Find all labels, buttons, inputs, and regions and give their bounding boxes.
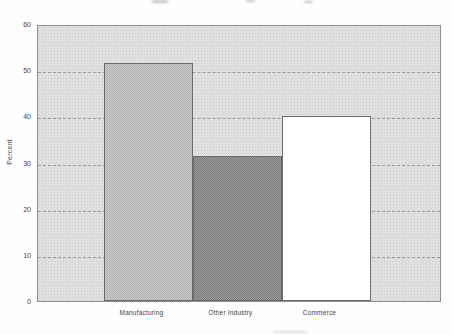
y-tick-60: 60 (0, 21, 31, 29)
bar-other-industry (193, 156, 282, 301)
cropped-title-remnant (152, 0, 168, 3)
gridline-40 (38, 118, 440, 119)
y-tick-10: 10 (0, 252, 31, 260)
bar-chart-figure: Percent 0102030405060ManufacturingOther … (0, 0, 452, 334)
y-tick-40: 40 (0, 113, 31, 121)
cropped-title-remnant (304, 1, 313, 3)
gridline-50 (38, 72, 440, 73)
plot-area (37, 25, 441, 302)
bar-commerce (282, 116, 371, 301)
y-tick-0: 0 (0, 298, 31, 306)
y-tick-30: 30 (0, 160, 31, 168)
y-tick-20: 20 (0, 206, 31, 214)
x-label-other-industry: Other Industry (186, 308, 276, 317)
bar-manufacturing (104, 63, 193, 301)
x-label-manufacturing: Manufacturing (97, 308, 187, 317)
x-label-commerce: Commerce (275, 308, 365, 317)
cropped-text-remnant (272, 331, 308, 333)
y-tick-50: 50 (0, 67, 31, 75)
cropped-title-remnant (246, 0, 255, 2)
